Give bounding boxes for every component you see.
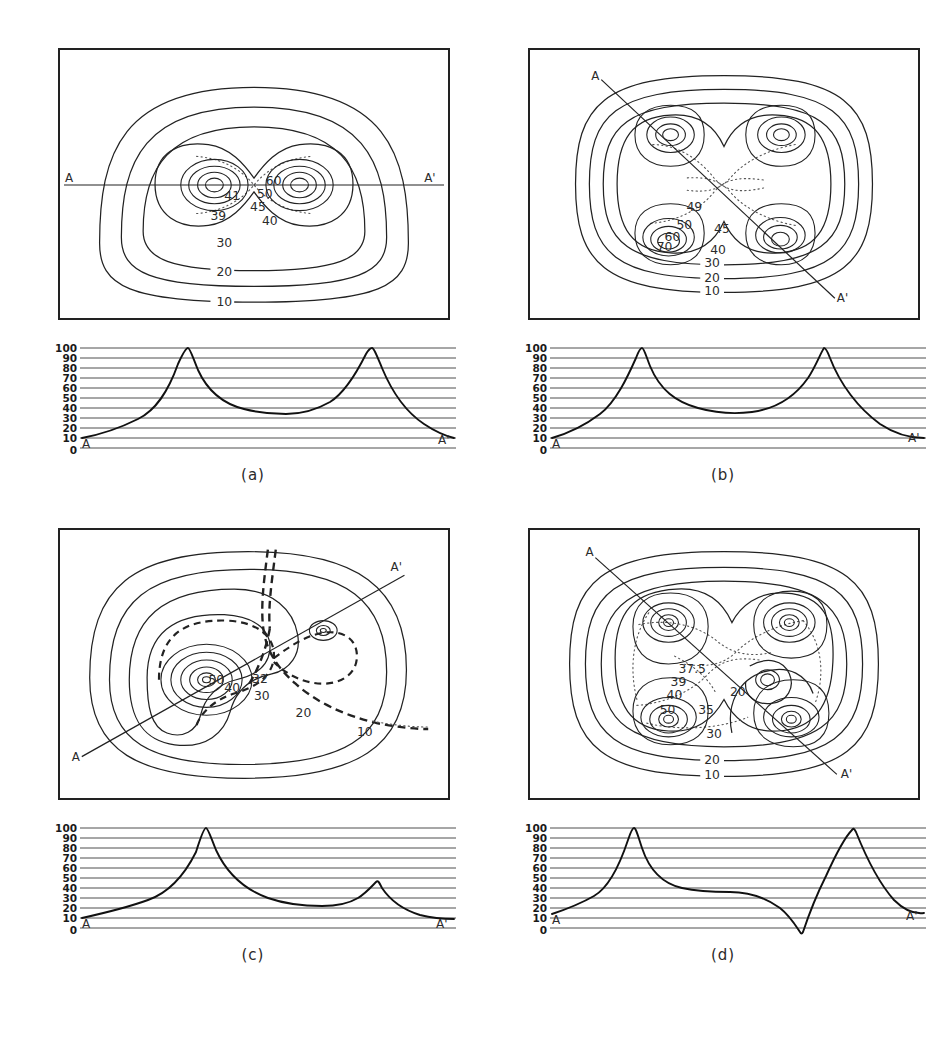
- contour-label-c-50: 50: [208, 673, 224, 687]
- profile-a-end-label: A': [438, 433, 450, 447]
- contour-label-b-45: 45: [714, 222, 730, 236]
- tick-c-0: 0: [70, 924, 77, 936]
- contour-label-d-39: 39: [671, 675, 687, 689]
- profile-a-start-label: A: [82, 437, 91, 451]
- panel-b: A A' 49 50 60 70 45 40 30 20 10: [508, 48, 938, 508]
- contour-label-b-20: 20: [704, 271, 720, 285]
- profile-c-curve: [82, 828, 454, 919]
- contour-label-a-30-top: 30: [216, 236, 232, 250]
- profile-c-start-label: A: [82, 917, 91, 931]
- profile-b-start-label: A: [552, 437, 561, 451]
- contour-label-a-40: 40: [262, 214, 278, 228]
- contour-label-c-40: 40: [224, 681, 240, 695]
- panel-caption-c: (c): [38, 946, 468, 964]
- panel-c: A A' 50 40 32 30 20 10: [38, 528, 468, 988]
- panel-caption-a: (a): [38, 466, 468, 484]
- contour-map-d: A A' 37.5 39 40 50 35 30 20 20 10: [528, 528, 920, 800]
- profile-chart-c-svg: 100 90 80 70 60 50 40 30 20 10 0 A A': [38, 816, 468, 944]
- section-start-label-d: A: [585, 545, 593, 559]
- section-end-label-a: A': [424, 171, 435, 185]
- profile-c-ticklabels: 100 90 80 70 60 50 40 30 20 10 0: [55, 822, 77, 936]
- contour-map-b: A A' 49 50 60 70 45 40 30 20 10: [528, 48, 920, 320]
- panel-caption-d: (d): [508, 946, 938, 964]
- contour-label-a-20-top: 20: [216, 265, 232, 279]
- contour-label-c-10: 10: [357, 725, 373, 739]
- section-start-label-b: A: [591, 69, 599, 83]
- contour-label-b-10: 10: [704, 284, 720, 298]
- contour-label-a-41: 41: [224, 189, 240, 203]
- profile-b-grid: [550, 348, 926, 448]
- contour-label-b-30: 30: [704, 256, 720, 270]
- profile-b-end-label: A': [908, 431, 920, 445]
- section-end-label-b: A': [837, 291, 848, 305]
- panel-d: A A' 37.5 39 40 50 35 30 20 20 10: [508, 528, 938, 988]
- contour-label-d-10: 10: [704, 768, 720, 782]
- contour-label-c-32: 32: [252, 672, 268, 686]
- profile-chart-b-svg: 100 90 80 70 60 50 40 30 20 10 0 A A': [508, 336, 938, 464]
- tick-a-10: 10: [62, 432, 77, 444]
- section-end-label-c: A': [391, 560, 402, 574]
- contour-map-b-svg: A A' 49 50 60 70 45 40 30 20 10: [530, 50, 918, 318]
- contour-label-b-49: 49: [686, 200, 702, 214]
- profile-d-end-label: A': [906, 909, 918, 923]
- section-start-label-a: A: [65, 171, 73, 185]
- profile-a-grid: [80, 348, 456, 448]
- profile-chart-d: 100 90 80 70 60 50 40 30 20 10 0 A A': [508, 816, 938, 944]
- profile-chart-d-svg: 100 90 80 70 60 50 40 30 20 10 0 A A': [508, 816, 938, 944]
- profile-chart-a-svg: 100 90 80 70 60 50 40 30 20 10 0 A A': [38, 336, 468, 464]
- tick-d-0: 0: [540, 924, 547, 936]
- contour-label-d-35: 35: [698, 703, 714, 717]
- tick-c-10: 10: [62, 912, 77, 924]
- tick-b-10: 10: [532, 432, 547, 444]
- contour-map-c: A A' 50 40 32 30 20 10: [58, 528, 450, 800]
- profile-d-ticklabels: 100 90 80 70 60 50 40 30 20 10 0: [525, 822, 547, 936]
- section-start-label-c: A: [72, 750, 80, 764]
- profile-b-curve: [552, 348, 924, 438]
- tick-a-0: 0: [70, 444, 77, 456]
- contour-map-a-svg: A A' 60 50 41 45 39 40 30 20 10 30 20 10: [60, 50, 448, 318]
- panel-a: A A' 60 50 41 45 39 40 30 20 10 30 20 10: [38, 48, 468, 508]
- contour-label-d-20-sink: 20: [730, 685, 746, 699]
- contour-label-c-30: 30: [254, 689, 270, 703]
- contour-map-a: A A' 60 50 41 45 39 40 30 20 10 30 20 10: [58, 48, 450, 320]
- contour-label-b-70: 70: [657, 240, 673, 254]
- contour-label-a-45: 45: [250, 200, 266, 214]
- contour-map-d-svg: A A' 37.5 39 40 50 35 30 20 20 10: [530, 530, 918, 798]
- contour-label-a-10-top: 10: [216, 295, 232, 309]
- profile-chart-b: 100 90 80 70 60 50 40 30 20 10 0 A A': [508, 336, 938, 464]
- profile-a-ticklabels: 100 90 80 70 60 50 40 30 20 10 0: [55, 342, 77, 456]
- contour-label-c-20: 20: [296, 706, 312, 720]
- contour-label-d-30: 30: [706, 727, 722, 741]
- contour-label-d-40: 40: [667, 688, 683, 702]
- profile-b-ticklabels: 100 90 80 70 60 50 40 30 20 10 0: [525, 342, 547, 456]
- contour-label-d-50: 50: [660, 703, 676, 717]
- figure-root: A A' 60 50 41 45 39 40 30 20 10 30 20 10: [0, 0, 950, 1038]
- profile-c-grid: [80, 828, 456, 928]
- profile-d-grid: [550, 828, 926, 928]
- contour-label-a-39: 39: [210, 209, 226, 223]
- profile-chart-c: 100 90 80 70 60 50 40 30 20 10 0 A A': [38, 816, 468, 944]
- profile-chart-a: 100 90 80 70 60 50 40 30 20 10 0 A A': [38, 336, 468, 464]
- contour-label-d-20: 20: [704, 753, 720, 767]
- tick-b-0: 0: [540, 444, 547, 456]
- profile-c-end-label: A': [436, 917, 448, 931]
- profile-d-start-label: A: [552, 913, 561, 927]
- contour-map-c-svg: A A' 50 40 32 30 20 10: [60, 530, 448, 798]
- profile-a-curve: [82, 348, 454, 438]
- panel-caption-b: (b): [508, 466, 938, 484]
- section-end-label-d: A': [841, 767, 852, 781]
- tick-d-10: 10: [532, 912, 547, 924]
